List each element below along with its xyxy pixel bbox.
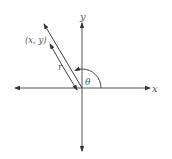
radius-label: r	[58, 62, 63, 72]
point-label: (x, y)	[25, 35, 47, 45]
x-axis-label: x	[152, 83, 158, 94]
radius-dimension-lower	[63, 67, 77, 90]
y-axis-label: y	[79, 11, 86, 22]
terminal-ray	[44, 24, 82, 88]
polar-coordinate-diagram: y x (x, y) r θ	[0, 0, 172, 159]
angle-label: θ	[85, 77, 91, 87]
